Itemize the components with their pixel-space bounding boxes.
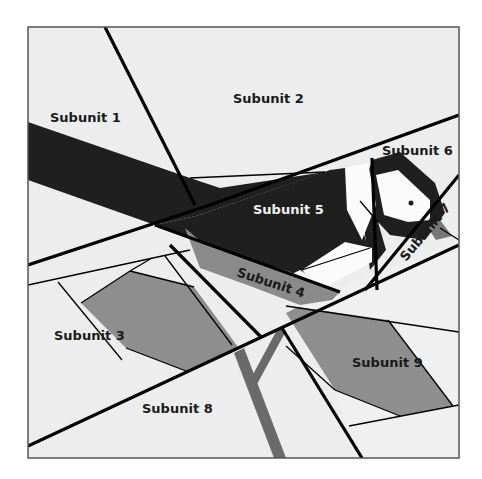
label-subunit-3: Subunit 3 [54, 328, 125, 343]
label-subunit-1: Subunit 1 [50, 110, 121, 125]
label-subunit-8: Subunit 8 [142, 401, 213, 416]
label-subunit-6: Subunit 6 [382, 143, 453, 158]
label-subunit-5: Subunit 5 [253, 202, 324, 217]
diagram-canvas: Subunit 1 Subunit 2 Subunit 3 Subunit 4 … [0, 0, 482, 479]
label-subunit-9: Subunit 9 [352, 355, 423, 370]
label-subunit-2: Subunit 2 [233, 91, 304, 106]
subunit-diagram: Subunit 1 Subunit 2 Subunit 3 Subunit 4 … [0, 0, 482, 479]
eye-dot [409, 201, 414, 206]
